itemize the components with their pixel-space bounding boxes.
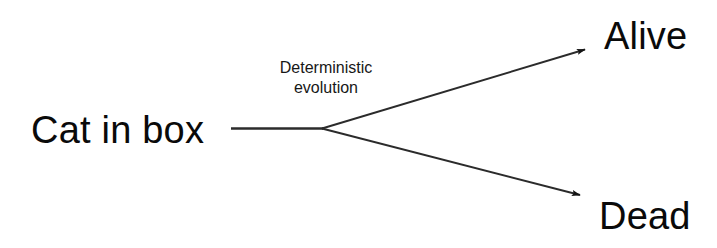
edge-label-line-2: evolution — [236, 78, 416, 98]
node-label-source: Cat in box — [31, 111, 204, 149]
diagram-canvas: Cat in box Alive Dead Deterministic evol… — [0, 0, 717, 248]
edge-arrow-to-dead — [322, 129, 580, 196]
edge-label-line-1: Deterministic — [236, 58, 416, 78]
node-label-outcome-dead: Dead — [599, 197, 691, 235]
edge-label-deterministic-evolution: Deterministic evolution — [236, 58, 416, 98]
node-label-outcome-alive: Alive — [604, 17, 687, 55]
